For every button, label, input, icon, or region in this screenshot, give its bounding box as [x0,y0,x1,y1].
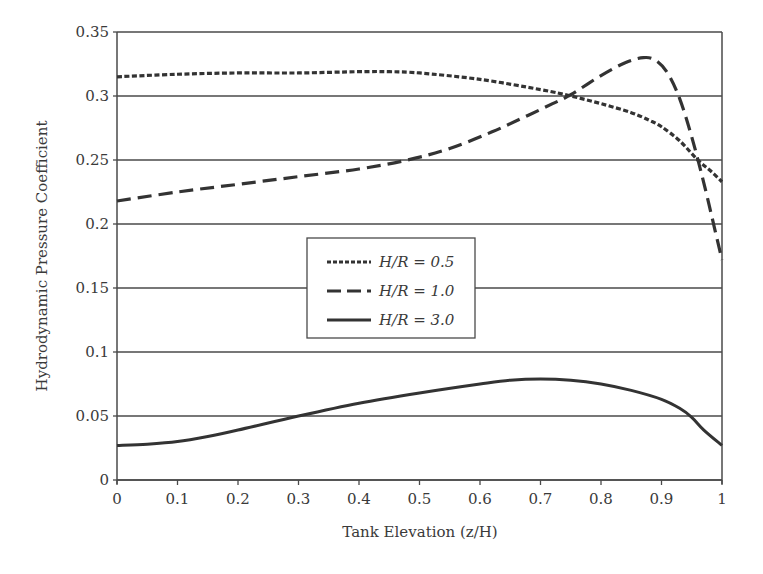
legend-label: H/R = 0.5 [378,253,454,271]
y-tick-label: 0.15 [76,279,109,297]
line-chart: 00.050.10.150.20.250.30.35 00.10.20.30.4… [0,0,763,574]
y-tick-label: 0.35 [76,23,109,41]
y-tick-label: 0.3 [85,87,109,105]
legend: H/R = 0.5H/R = 1.0H/R = 3.0 [307,238,475,338]
legend-label: H/R = 1.0 [378,282,455,300]
x-tick-label: 0.8 [589,490,613,508]
x-axis-ticks: 00.10.20.30.40.50.60.70.80.91 [112,480,727,508]
y-tick-label: 0.1 [85,343,109,361]
x-tick-label: 0.4 [347,490,371,508]
x-tick-label: 0.9 [650,490,674,508]
x-tick-label: 0.1 [166,490,190,508]
x-tick-label: 0.5 [408,490,432,508]
x-tick-label: 0.7 [529,490,553,508]
x-axis-label: Tank Elevation (z/H) [342,523,497,541]
y-tick-label: 0 [99,471,109,489]
legend-label: H/R = 3.0 [378,311,455,329]
x-tick-label: 0.3 [287,490,311,508]
x-tick-label: 0.2 [226,490,250,508]
y-tick-label: 0.05 [76,407,109,425]
y-axis-label: Hydrodynamic Pressure Coefficient [33,121,51,392]
series-line-1 [117,72,722,182]
x-tick-label: 0.6 [468,490,492,508]
x-tick-label: 0 [112,490,122,508]
x-tick-label: 1 [717,490,727,508]
y-tick-label: 0.25 [76,151,109,169]
y-tick-label: 0.2 [85,215,109,233]
series-line-3 [117,379,722,446]
y-axis-ticks: 00.050.10.150.20.250.30.35 [76,23,117,489]
series-line-2 [117,57,722,259]
